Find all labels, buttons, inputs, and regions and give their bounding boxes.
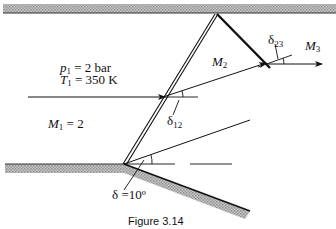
delta12-label: δ12 — [167, 113, 182, 130]
top-wall — [3, 4, 336, 13]
bottom-wall — [5, 164, 125, 173]
oblique-shock-reflection-diagram: p1 = 2 bar T1 = 350 K M1 = 2 M2 M3 δ12 δ… — [0, 0, 336, 229]
delta12-leader — [173, 100, 179, 115]
M1-label: M1 = 2 — [47, 116, 84, 132]
flow-direction-line — [124, 120, 250, 164]
figure-caption: Figure 3.14 — [128, 215, 184, 227]
delta23-angle-arc — [283, 58, 284, 64]
incident-shock — [123, 14, 218, 165]
delta12-angle-arc — [182, 91, 183, 97]
M3-label: M3 — [304, 38, 321, 54]
delta-wall-label: δ =10º — [112, 187, 146, 202]
delta-angle-arc — [151, 155, 152, 164]
M2-label: M2 — [211, 54, 227, 70]
delta23-label: δ23 — [268, 32, 284, 49]
